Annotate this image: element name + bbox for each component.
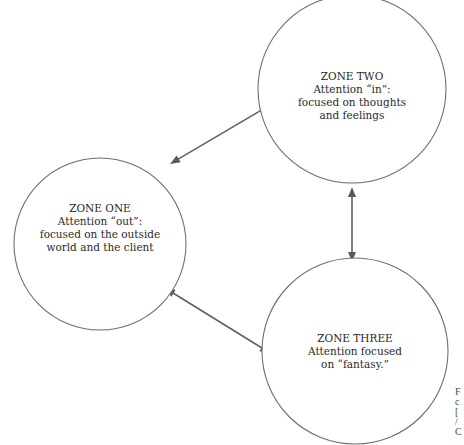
zone-one: ZONE ONEAttention “out”:focused on the o…	[14, 158, 186, 330]
zone-three-label-line: on “fantasy.”	[321, 358, 389, 370]
caption-fragment-char: C	[455, 426, 462, 437]
zone-three: ZONE THREEAttention focusedon “fantasy.”	[262, 258, 448, 444]
arrow-shaft	[172, 292, 263, 349]
arrow-zone-two-zone-three	[348, 187, 356, 262]
arrow-shaft	[177, 109, 263, 160]
arrow-zone-one-zone-two	[170, 105, 270, 164]
zone-two-label-line: and feelings	[320, 109, 385, 121]
arrowhead-icon	[170, 155, 181, 164]
zone-two: ZONE TWOAttention “in”:focused on though…	[258, 0, 446, 183]
zone-three-title: ZONE THREE	[317, 332, 393, 344]
zones-of-attention-diagram: ZONE ONEAttention “out”:focused on the o…	[0, 0, 464, 445]
arrow-zone-one-zone-three	[165, 288, 270, 353]
zone-three-label-line: Attention focused	[307, 345, 402, 357]
zone-two-title: ZONE TWO	[321, 70, 384, 82]
zone-two-label-line: Attention “in”:	[312, 83, 390, 95]
zone-one-label-line: Attention “out”:	[57, 215, 142, 227]
caption-fragment: Fc[/C	[455, 386, 462, 437]
zone-one-label-line: focused on the outside	[40, 228, 160, 240]
zone-two-label-line: focused on thoughts	[298, 96, 406, 108]
zone-one-title: ZONE ONE	[69, 202, 131, 214]
arrowhead-icon	[348, 187, 356, 197]
zone-one-label-line: world and the client	[46, 241, 154, 253]
zones: ZONE ONEAttention “out”:focused on the o…	[14, 0, 448, 444]
